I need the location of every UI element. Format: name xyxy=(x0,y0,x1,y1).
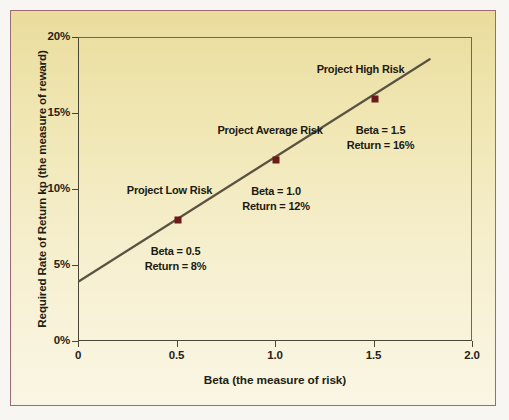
x-tick-label: 0 xyxy=(75,349,81,361)
data-point-return-value: Return = 8% xyxy=(145,259,207,274)
data-point-marker[interactable] xyxy=(273,156,280,163)
data-point-stats-label: Beta = 0.5Return = 8% xyxy=(145,244,207,274)
x-tick-mark xyxy=(275,341,276,347)
data-point-return-value: Return = 16% xyxy=(347,138,415,153)
y-tick-label: 20% xyxy=(30,30,70,42)
y-tick-mark xyxy=(72,189,78,190)
y-tick-label: 15% xyxy=(30,106,70,118)
x-tick-mark xyxy=(374,341,375,347)
x-tick-mark xyxy=(177,341,178,347)
chart-figure: Required Rate of Return kp (the measure … xyxy=(0,0,509,420)
x-tick-label: 2.0 xyxy=(464,349,479,361)
x-tick-mark xyxy=(472,341,473,347)
x-tick-label: 1.5 xyxy=(366,349,381,361)
data-point-marker[interactable] xyxy=(371,95,378,102)
y-tick-label: 5% xyxy=(30,258,70,270)
data-point-beta-value: Beta = 0.5 xyxy=(145,244,207,259)
data-point-stats-label: Beta = 1.5Return = 16% xyxy=(347,123,415,153)
data-point-marker[interactable] xyxy=(174,217,181,224)
plot-overlay: Project Low RiskBeta = 0.5Return = 8%Pro… xyxy=(79,38,473,342)
x-tick-label: 0.5 xyxy=(169,349,184,361)
x-tick-label: 1.0 xyxy=(267,349,282,361)
y-tick-label: 0% xyxy=(30,334,70,346)
y-tick-mark xyxy=(72,113,78,114)
data-point-name-label: Project High Risk xyxy=(317,63,405,75)
data-point-name-label: Project Average Risk xyxy=(217,124,322,136)
y-tick-mark xyxy=(72,37,78,38)
data-point-return-value: Return = 12% xyxy=(242,199,310,214)
plot-area: Project Low RiskBeta = 0.5Return = 8%Pro… xyxy=(78,37,472,341)
data-point-name-label: Project Low Risk xyxy=(127,184,212,196)
y-tick-label: 10% xyxy=(30,182,70,194)
data-point-beta-value: Beta = 1.5 xyxy=(347,123,415,138)
y-tick-mark xyxy=(72,265,78,266)
data-point-stats-label: Beta = 1.0Return = 12% xyxy=(242,184,310,214)
data-point-beta-value: Beta = 1.0 xyxy=(242,184,310,199)
x-tick-mark xyxy=(78,341,79,347)
x-axis-title: Beta (the measure of risk) xyxy=(78,373,472,387)
